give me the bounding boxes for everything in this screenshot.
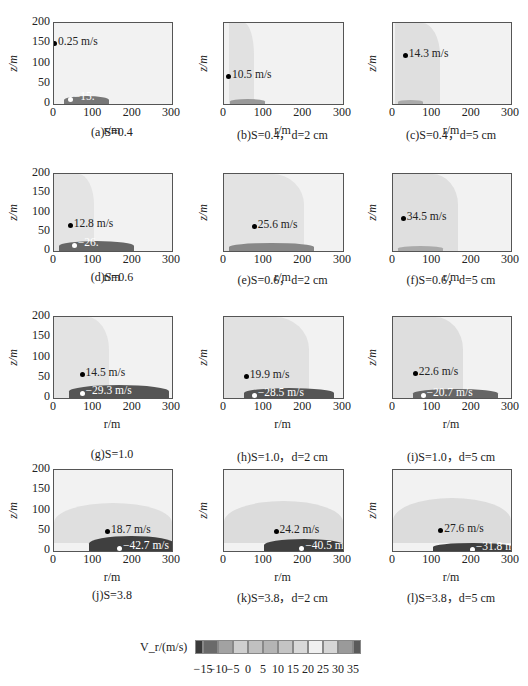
max-velocity-label: 10.5 m/s (232, 68, 272, 80)
x-tick-label: 0 (377, 105, 407, 120)
x-tick-label: 0 (38, 399, 68, 414)
panel-caption: (f)S=0.6，d=5 cm (381, 270, 521, 288)
x-tick-label: 100 (416, 252, 446, 267)
y-axis-label: z/m (6, 204, 21, 221)
panel-caption: (i)S=1.0，d=5 cm (381, 447, 521, 465)
x-tick-label: 0 (377, 399, 407, 414)
x-tick-label: 0 (377, 252, 407, 267)
y-tick-label: 100 (26, 502, 50, 517)
max-velocity-label: 25.6 m/s (258, 218, 298, 230)
max-velocity-label: 22.6 m/s (419, 365, 459, 377)
y-tick-label: 50 (26, 369, 50, 384)
max-velocity-marker (413, 371, 418, 376)
y-axis-label: z/m (6, 502, 21, 519)
colorbar-swatch (248, 640, 263, 654)
x-tick-label: 0 (38, 552, 68, 567)
negative-velocity-region (229, 243, 314, 251)
x-axis-label: r/m (97, 570, 127, 585)
min-velocity-label: −40.5 m/s (305, 539, 344, 551)
y-tick-label: 100 (26, 349, 50, 364)
x-axis-label: r/m (97, 417, 127, 432)
min-velocity-marker (117, 546, 122, 551)
x-tick-label: 0 (38, 252, 68, 267)
contour-plot-area: 22.6 m/s−20.7 m/s (392, 316, 512, 399)
negative-velocity-region (230, 99, 265, 104)
max-velocity-label: 14.3 m/s (409, 47, 449, 59)
x-tick-label: 200 (117, 105, 147, 120)
panel-caption: (e)S=0.6，d=2 cm (213, 270, 353, 288)
contour-plot-area: 14.3 m/s (392, 22, 512, 105)
x-tick-label: 200 (456, 399, 486, 414)
x-axis-label: r/m (436, 417, 466, 432)
min-velocity-label: −26. (78, 236, 99, 248)
max-velocity-label: 34.5 m/s (407, 210, 447, 222)
x-tick-label: 100 (77, 105, 107, 120)
velocity-region (393, 498, 511, 543)
x-tick-label: 300 (156, 399, 186, 414)
min-velocity-marker (421, 393, 426, 398)
x-tick-label: 100 (416, 105, 446, 120)
x-tick-label: 300 (327, 105, 357, 120)
y-axis-label: z/m (365, 349, 380, 366)
max-velocity-marker (226, 74, 231, 79)
x-tick-label: 200 (287, 552, 317, 567)
y-axis-label: z/m (196, 502, 211, 519)
panel-caption: (l)S=3.8，d=5 cm (381, 588, 521, 606)
min-velocity-marker (252, 393, 257, 398)
min-velocity-label: −31.8 m/s (476, 540, 512, 552)
y-tick-label: 200 (26, 461, 50, 476)
y-tick-label: 50 (26, 75, 50, 90)
y-tick-label: 150 (26, 481, 50, 496)
x-tick-label: 100 (248, 399, 278, 414)
x-axis-label: r/m (436, 570, 466, 585)
x-tick-label: 200 (117, 552, 147, 567)
y-axis-label: z/m (6, 55, 21, 72)
x-tick-label: 300 (327, 252, 357, 267)
max-velocity-marker (68, 223, 73, 228)
y-tick-label: 50 (26, 223, 50, 238)
x-tick-label: 300 (327, 552, 357, 567)
colorbar-swatch (203, 640, 218, 654)
y-tick-label: 150 (26, 184, 50, 199)
x-tick-label: 0 (377, 552, 407, 567)
x-tick-label: 100 (248, 105, 278, 120)
x-tick-label: 200 (287, 105, 317, 120)
colorbar-swatch (353, 640, 361, 654)
x-tick-label: 100 (248, 252, 278, 267)
x-tick-label: 0 (208, 105, 238, 120)
x-tick-label: 100 (77, 252, 107, 267)
contour-plot-area: 10.5 m/s (223, 22, 344, 105)
contour-plot-area: 24.2 m/s−40.5 m/s (223, 469, 344, 552)
max-velocity-label: 27.6 m/s (444, 522, 484, 534)
velocity-region (224, 174, 304, 251)
x-tick-label: 200 (117, 399, 147, 414)
contour-plot-area: 18.7 m/s−42.7 m/s (53, 469, 173, 552)
x-axis-label: r/m (268, 570, 298, 585)
x-tick-label: 200 (287, 399, 317, 414)
max-velocity-marker (274, 529, 279, 534)
x-tick-label: 300 (495, 105, 525, 120)
y-axis-label: z/m (196, 55, 211, 72)
x-tick-label: 0 (208, 252, 238, 267)
x-tick-label: 100 (248, 552, 278, 567)
colorbar-swatch (218, 640, 233, 654)
max-velocity-label: 19.9 m/s (250, 368, 290, 380)
negative-velocity-region (398, 100, 423, 104)
min-velocity-label: −28.5 m/s (258, 386, 304, 398)
y-tick-label: 200 (26, 165, 50, 180)
panel-caption: (j)S=3.8 (42, 588, 182, 603)
velocity-region (229, 23, 254, 104)
max-velocity-marker (252, 224, 257, 229)
x-tick-label: 100 (77, 552, 107, 567)
panel-caption: (b)S=0.4，d=2 cm (213, 125, 353, 143)
figure: 0.25 m/s−15.0501001502000100200300z/mr/m… (0, 0, 528, 686)
x-tick-label: 300 (495, 552, 525, 567)
colorbar-swatch (308, 640, 323, 654)
contour-plot-area: 0.25 m/s−15. (53, 22, 173, 105)
colorbar-title: V_r/(m/s) (140, 640, 187, 655)
min-velocity-marker (80, 391, 85, 396)
y-axis-label: z/m (365, 204, 380, 221)
y-axis-label: z/m (196, 204, 211, 221)
contour-plot-area: 14.5 m/s−29.3 m/s (53, 316, 173, 399)
x-tick-label: 300 (156, 552, 186, 567)
